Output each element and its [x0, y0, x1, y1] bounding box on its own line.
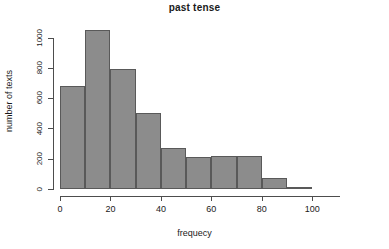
- x-axis-tick-mark: [211, 196, 212, 201]
- histogram-bar: [161, 148, 186, 189]
- histogram-figure: past tense number of texts 0200400600800…: [0, 0, 389, 249]
- histogram-bar: [136, 113, 161, 189]
- y-axis-tick-label: 800: [36, 61, 44, 74]
- x-axis-tick-label: 80: [257, 204, 267, 214]
- plot-area: [60, 30, 340, 189]
- y-axis-line: [53, 38, 54, 190]
- y-axis-tick-label: 600: [36, 91, 44, 104]
- x-axis-tick-mark: [161, 196, 162, 201]
- histogram-bar: [287, 187, 312, 189]
- x-axis-tick-mark: [262, 196, 263, 201]
- x-axis-tick-mark: [60, 196, 61, 201]
- y-axis-tick-label: 400: [36, 122, 44, 135]
- histogram-bar: [186, 157, 211, 189]
- x-axis-line: [60, 196, 340, 197]
- x-axis-tick-label: 0: [57, 204, 62, 214]
- y-axis-tick-mark: [48, 38, 53, 39]
- y-axis-tick-mark: [48, 189, 53, 190]
- x-axis-title: frequecy: [0, 228, 389, 238]
- y-axis-tick-label: 1000: [36, 29, 44, 47]
- x-axis-tick-label: 100: [305, 204, 320, 214]
- x-axis-tick-mark: [110, 196, 111, 201]
- histogram-bar: [60, 86, 85, 189]
- y-axis-tick-mark: [48, 128, 53, 129]
- y-axis-tick-mark: [48, 68, 53, 69]
- histogram-bar: [262, 178, 287, 189]
- x-axis-tick-mark: [312, 196, 313, 201]
- x-axis-tick-label: 40: [156, 204, 166, 214]
- x-axis-tick-label: 60: [206, 204, 216, 214]
- histogram-bar: [237, 156, 262, 189]
- histogram-bar: [211, 156, 236, 189]
- chart-title: past tense: [0, 2, 389, 13]
- y-axis-tick-label: 200: [36, 152, 44, 165]
- histogram-bar: [85, 30, 110, 189]
- y-axis-tick-mark: [48, 159, 53, 160]
- y-axis-tick-mark: [48, 98, 53, 99]
- x-axis-tick-label: 20: [105, 204, 115, 214]
- y-axis-title: number of texts: [4, 70, 14, 132]
- histogram-bar: [110, 69, 135, 189]
- y-axis-tick-label: 0: [36, 187, 44, 191]
